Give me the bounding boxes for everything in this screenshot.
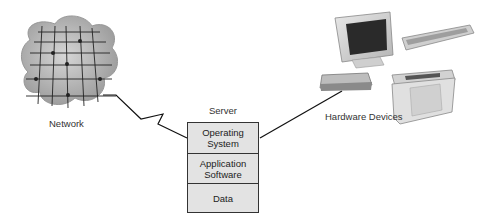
layer-text: System xyxy=(202,138,244,149)
layer-application-software: ApplicationSoftware xyxy=(188,154,258,184)
layer-operating-system: OperatingSystem xyxy=(188,123,258,154)
layer-text: Data xyxy=(213,193,233,204)
keyboard-icon xyxy=(402,25,474,50)
network-label: Network xyxy=(49,118,84,129)
hardware-devices-label: Hardware Devices xyxy=(325,111,403,122)
layer-text: Application xyxy=(200,158,246,169)
layer-data: Data xyxy=(188,184,258,213)
monitor-icon xyxy=(335,12,393,68)
server-label: Server xyxy=(209,105,237,116)
layer-text: Operating xyxy=(202,127,244,138)
server-stack: OperatingSystem ApplicationSoftware Data xyxy=(187,122,259,213)
modem-icon xyxy=(320,73,372,91)
network-cloud-icon xyxy=(21,16,117,108)
network-link-line xyxy=(103,95,187,138)
layer-text: Software xyxy=(200,169,246,180)
diagram-canvas: Network Server Hardware Devices Operatin… xyxy=(0,0,488,222)
